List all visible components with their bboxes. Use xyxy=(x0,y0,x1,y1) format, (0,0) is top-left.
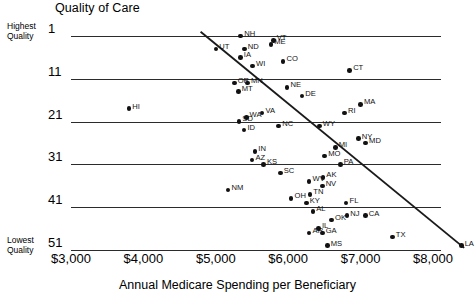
data-point-label: MT xyxy=(242,85,253,93)
data-point xyxy=(232,81,237,86)
data-point-label: KS xyxy=(267,158,277,166)
data-point xyxy=(459,243,464,248)
data-point xyxy=(325,243,330,248)
data-point-label: NM xyxy=(232,184,244,192)
data-point-label: DE xyxy=(305,90,316,98)
data-point-label: TX xyxy=(396,231,406,239)
data-point-label: CO xyxy=(287,55,298,63)
x-axis-tick-6000: $6,000 xyxy=(253,252,323,265)
gridline xyxy=(71,122,441,123)
data-point xyxy=(278,171,283,176)
data-point-label: IA xyxy=(244,51,251,59)
data-point xyxy=(304,201,309,206)
y-axis-tick-21: 21 xyxy=(48,108,62,121)
data-point-label: FL xyxy=(350,197,359,205)
gridline xyxy=(71,164,441,165)
data-point-label: NC xyxy=(282,120,293,128)
data-point xyxy=(236,89,241,94)
data-point-label: CA xyxy=(369,210,380,218)
data-point-label: SC xyxy=(284,167,295,175)
data-point-label: AK xyxy=(326,171,336,179)
x-axis-tick-5000: $5,000 xyxy=(181,252,251,265)
y-axis-tick-1: 1 xyxy=(48,22,55,35)
data-point-label: AZ xyxy=(255,154,265,162)
data-point xyxy=(244,115,249,120)
data-point-label: AL xyxy=(316,205,325,213)
x-axis-tick-7000: $7,000 xyxy=(326,252,396,265)
data-point-label: ID xyxy=(247,124,255,132)
gridline xyxy=(71,207,441,208)
data-point xyxy=(321,175,326,180)
y-axis-tick-41: 41 xyxy=(48,193,62,206)
data-point xyxy=(238,55,243,60)
data-point xyxy=(311,209,316,214)
data-point-label: NE xyxy=(291,81,302,89)
data-point-label: MI xyxy=(339,141,347,149)
data-point xyxy=(356,136,361,141)
data-point-label: MS xyxy=(331,240,342,248)
data-point xyxy=(261,162,266,167)
y-axis-tick-31: 31 xyxy=(48,150,62,163)
data-point-label: WY xyxy=(323,120,335,128)
data-point-label: UT xyxy=(219,43,229,51)
data-point-label: ME xyxy=(274,38,285,46)
y-axis-tick-11: 11 xyxy=(48,65,62,78)
data-point xyxy=(269,42,274,47)
data-point-label: PA xyxy=(344,158,354,166)
data-point-label: GA xyxy=(326,227,337,235)
y-axis-top-caption: HighestQuality xyxy=(7,22,36,41)
gridline xyxy=(71,36,441,37)
data-point xyxy=(214,47,219,52)
data-point-label: MO xyxy=(328,150,340,158)
y-axis-tick-51: 51 xyxy=(48,236,62,249)
data-point xyxy=(317,124,322,129)
data-point-label: TN xyxy=(313,188,323,196)
data-point xyxy=(285,85,290,90)
data-point xyxy=(358,102,363,107)
data-point-label: AR xyxy=(313,227,324,235)
data-point-label: MD xyxy=(369,137,381,145)
data-point-label: CT xyxy=(353,64,363,72)
data-point-label: WA xyxy=(250,111,262,119)
data-point-label: LA xyxy=(465,240,474,248)
data-point-label: VA xyxy=(266,107,276,115)
data-point-label: RI xyxy=(348,107,356,115)
x-axis-tick-8000: $8,000 xyxy=(398,252,468,265)
data-point-label: MA xyxy=(364,98,375,106)
data-point-label: OH xyxy=(294,192,305,200)
data-point-label: HI xyxy=(132,103,140,111)
data-point-label: WI xyxy=(256,60,265,68)
data-point-label: OK xyxy=(335,214,346,222)
data-point-label: NH xyxy=(244,30,255,38)
data-point-label: NV xyxy=(326,180,337,188)
x-axis-label: Annual Medicare Spending per Beneficiary xyxy=(0,278,475,292)
chart-root: Quality of Care HighestQuality LowestQua… xyxy=(0,0,475,305)
data-point-label: NJ xyxy=(350,210,359,218)
data-point xyxy=(322,154,327,159)
x-axis-tick-3000: $3,000 xyxy=(36,252,106,265)
data-point xyxy=(363,213,368,218)
chart-title: Quality of Care xyxy=(55,1,140,15)
data-point xyxy=(347,68,352,73)
y-axis-bottom-caption: LowestQuality xyxy=(7,236,34,255)
data-point xyxy=(338,162,343,167)
x-axis-tick-4000: $4,000 xyxy=(108,252,178,265)
data-point xyxy=(237,119,242,124)
